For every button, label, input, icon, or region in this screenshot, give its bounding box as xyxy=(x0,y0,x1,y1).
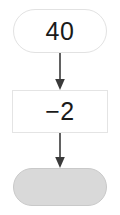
node-result xyxy=(13,168,107,206)
node-start: 40 xyxy=(13,9,107,53)
edge-start-operation xyxy=(55,53,65,90)
node-operation-label: −2 xyxy=(45,99,75,124)
flow-diagram-canvas: 40 −2 xyxy=(0,0,120,215)
node-start-label: 40 xyxy=(46,19,75,44)
node-operation: −2 xyxy=(12,90,108,133)
edge-operation-result xyxy=(55,133,65,168)
